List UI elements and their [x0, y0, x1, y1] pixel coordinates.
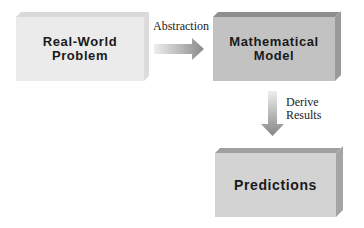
predictions-label: Predictions	[215, 153, 336, 217]
arrow-down-icon	[261, 91, 285, 137]
mathematical-model-box: Mathematical Model	[213, 17, 335, 81]
box-side-bevel	[335, 11, 341, 81]
box-side-bevel	[144, 12, 149, 81]
arrow-right-icon	[154, 38, 206, 60]
abstraction-label: Abstraction	[153, 20, 209, 33]
box-side-bevel	[336, 146, 343, 217]
derive-results-label: Derive Results	[286, 96, 321, 122]
predictions-box: Predictions	[215, 153, 336, 217]
mathematical-model-label: Mathematical Model	[213, 17, 335, 81]
real-world-problem-box: Real-World Problem	[16, 17, 144, 81]
real-world-problem-label: Real-World Problem	[16, 17, 144, 81]
